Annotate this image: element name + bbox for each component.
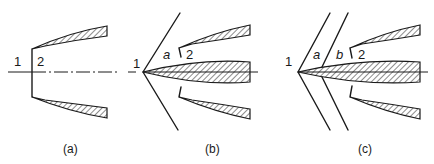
label-region-a: a	[163, 47, 170, 62]
upper-wall-hatched	[179, 25, 250, 48]
panel-b: 1 a 2 (b)	[133, 13, 258, 156]
oblique-shock-lower	[143, 72, 178, 130]
diagram-figure: 1 2 (a) 1 a 2 (b) 1 a b 2 (c)	[0, 0, 434, 164]
lip-lower-line	[350, 86, 352, 97]
caption-a: (a)	[63, 142, 78, 156]
panel-a: 1 2 (a)	[8, 26, 136, 156]
caption-c: (c)	[358, 142, 372, 156]
lower-wall-hatched	[32, 97, 107, 118]
oblique-shock-upper	[143, 13, 180, 72]
caption-b: (b)	[205, 142, 220, 156]
upper-wall-hatched	[350, 25, 420, 48]
panel-c: 1 a b 2 (c)	[285, 13, 428, 156]
label-region-b: b	[336, 47, 343, 62]
label-region-2: 2	[358, 47, 365, 62]
lip-upper-line	[179, 48, 181, 57]
lower-wall-hatched	[350, 97, 420, 119]
lip-upper-line	[350, 48, 352, 58]
lip-lower-line	[179, 87, 181, 97]
label-region-2: 2	[37, 54, 44, 69]
label-region-2: 2	[186, 47, 193, 62]
lower-wall-hatched	[179, 97, 250, 119]
upper-wall-hatched	[32, 26, 107, 49]
first-shock-upper	[298, 13, 330, 72]
first-shock-lower	[298, 72, 330, 130]
label-region-1: 1	[133, 56, 140, 71]
label-region-1: 1	[14, 54, 21, 69]
label-region-a: a	[313, 47, 320, 62]
label-region-1: 1	[285, 54, 292, 69]
